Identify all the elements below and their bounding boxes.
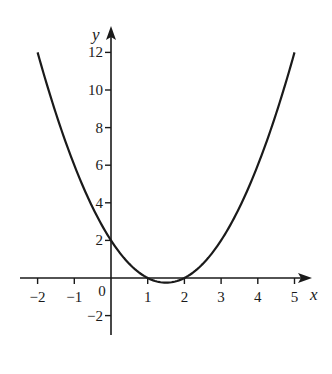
- y-tick-label: 2: [96, 232, 104, 248]
- y-tick-label: −2: [87, 308, 103, 324]
- y-tick-label: 6: [96, 157, 104, 173]
- y-tick-label: 12: [88, 44, 103, 60]
- parabola-curve: [38, 52, 295, 282]
- x-tick-label: 0: [98, 283, 106, 299]
- y-tick-label: 8: [96, 120, 104, 136]
- x-tick-label: −1: [66, 289, 82, 305]
- parabola-plot: −2−1012345−224681012xy: [0, 0, 332, 374]
- x-tick-label: 5: [291, 289, 299, 305]
- x-tick-label: 1: [144, 289, 152, 305]
- y-tick-label: 10: [88, 82, 103, 98]
- x-tick-label: 4: [254, 289, 262, 305]
- x-tick-label: −2: [30, 289, 46, 305]
- x-tick-label: 3: [217, 289, 225, 305]
- x-tick-label: 2: [181, 289, 189, 305]
- y-tick-label: 4: [96, 195, 104, 211]
- y-axis-label: y: [90, 25, 100, 44]
- x-axis-label: x: [309, 285, 318, 304]
